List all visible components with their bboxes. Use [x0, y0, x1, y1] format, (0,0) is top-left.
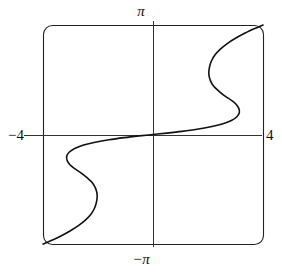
plot-canvas [0, 0, 282, 276]
axis-label-bottom: −π [0, 252, 282, 267]
plot-figure: π −π −4 4 [0, 0, 282, 276]
axis-label-right: 4 [266, 128, 274, 143]
axis-label-left: −4 [8, 128, 24, 143]
axis-label-top: π [0, 4, 282, 19]
